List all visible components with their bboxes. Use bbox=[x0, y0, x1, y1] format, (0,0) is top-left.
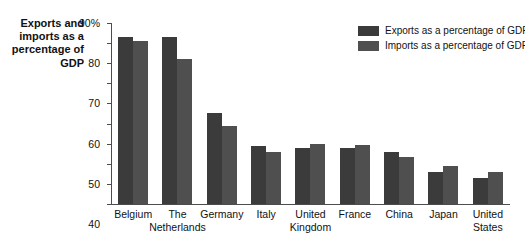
bar-group bbox=[244, 23, 288, 204]
bar-imports bbox=[133, 41, 148, 204]
bar-imports bbox=[488, 172, 503, 204]
x-axis-labels: BelgiumThe NetherlandsGermanyItalyUnited… bbox=[111, 208, 510, 246]
bar-exports bbox=[295, 148, 310, 204]
bar-exports bbox=[340, 148, 355, 204]
bar-imports bbox=[177, 59, 192, 204]
y-axis-tick-mark: 0 bbox=[107, 204, 111, 205]
bar-exports bbox=[428, 172, 443, 204]
y-axis-tick-label: 80 bbox=[88, 57, 100, 69]
bar-imports bbox=[310, 144, 325, 204]
chart-title: Exports and imports as a percentage of G… bbox=[0, 17, 84, 70]
bar-imports bbox=[355, 145, 370, 204]
x-axis-label: United States bbox=[458, 208, 518, 233]
bar-exports bbox=[162, 37, 177, 204]
x-axis-line bbox=[111, 204, 510, 205]
bar-exports bbox=[207, 113, 222, 205]
y-axis-tick-label: 90% bbox=[79, 17, 100, 29]
legend-swatch-exports bbox=[358, 26, 379, 36]
legend-label: Imports as a percentage of GDP bbox=[385, 40, 525, 51]
bar-chart: Exports and imports as a percentage of G… bbox=[0, 0, 525, 246]
bar-imports bbox=[222, 126, 237, 204]
bar-group bbox=[155, 23, 199, 204]
y-axis-tick-label: 40 bbox=[88, 218, 100, 230]
bar-exports bbox=[384, 152, 399, 204]
y-axis-tick-label: 50 bbox=[88, 178, 100, 190]
bar-exports bbox=[251, 146, 266, 204]
legend-item[interactable]: Exports as a percentage of GDP bbox=[358, 25, 525, 36]
legend-swatch-imports bbox=[358, 41, 379, 51]
bar-imports bbox=[266, 152, 281, 204]
bar-exports bbox=[118, 37, 133, 204]
chart-legend: Exports as a percentage of GDPImports as… bbox=[358, 25, 525, 51]
bar-exports bbox=[473, 178, 488, 204]
bar-group bbox=[200, 23, 244, 204]
y-axis-tick-label: 60 bbox=[88, 138, 100, 150]
bar-group bbox=[288, 23, 332, 204]
y-axis-tick-label: 70 bbox=[88, 97, 100, 109]
bar-imports bbox=[443, 166, 458, 204]
bar-group bbox=[111, 23, 155, 204]
legend-label: Exports as a percentage of GDP bbox=[385, 25, 525, 36]
legend-item[interactable]: Imports as a percentage of GDP bbox=[358, 40, 525, 51]
bar-imports bbox=[399, 157, 414, 204]
